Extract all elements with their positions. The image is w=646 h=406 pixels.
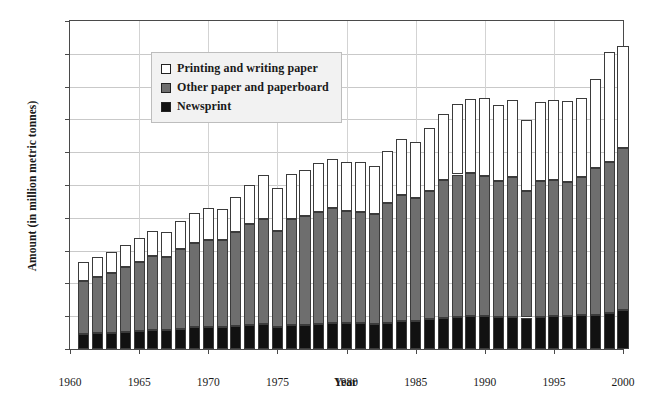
bar-1992 [507, 21, 518, 349]
bar-segment-other-paper [78, 281, 89, 334]
bar-segment-other-paper [535, 181, 546, 316]
legend-swatch-printing-icon [161, 64, 171, 74]
bar-segment-newsprint [299, 325, 310, 349]
legend-item-printing: Printing and writing paper [161, 59, 329, 78]
bar-segment-newsprint [286, 325, 297, 349]
bar-1980 [341, 21, 352, 349]
bar-segment-printing [189, 213, 200, 243]
bar-segment-other-paper [424, 191, 435, 320]
bar-1961 [78, 21, 89, 349]
bar-segment-newsprint [576, 315, 587, 349]
bar-segment-printing [604, 52, 615, 162]
bar-segment-newsprint [521, 318, 532, 349]
bar-1994 [535, 21, 546, 349]
bar-segment-newsprint [369, 324, 380, 349]
bar-segment-printing [258, 175, 269, 219]
bar-segment-newsprint [272, 327, 283, 349]
bar-segment-other-paper [327, 208, 338, 323]
bar-segment-other-paper [272, 231, 283, 328]
bar-segment-other-paper [521, 191, 532, 318]
bar-segment-newsprint [147, 330, 158, 349]
bar-segment-printing [493, 105, 504, 181]
bar-segment-newsprint [258, 324, 269, 349]
bar-segment-other-paper [493, 181, 504, 317]
x-tick-mark [347, 349, 348, 354]
bar-segment-printing [369, 166, 380, 214]
bar-segment-printing [327, 159, 338, 208]
bar-segment-other-paper [203, 240, 214, 327]
bar-segment-newsprint [92, 333, 103, 349]
x-tick-mark [208, 349, 209, 354]
y-tick-mark [65, 316, 70, 317]
bar-segment-printing [355, 162, 366, 211]
bar-1989 [465, 21, 476, 349]
bar-segment-newsprint [355, 323, 366, 349]
bar-1986 [424, 21, 435, 349]
bar-segment-newsprint [230, 326, 241, 349]
chart-legend: Printing and writing paper Other paper a… [151, 52, 342, 123]
bar-1982 [369, 21, 380, 349]
bar-segment-other-paper [92, 277, 103, 333]
y-axis-title: Amount (in million metric tonnes) [26, 36, 38, 336]
bar-segment-newsprint [590, 315, 601, 349]
bar-segment-printing [286, 174, 297, 219]
bar-segment-newsprint [479, 316, 490, 349]
bar-segment-other-paper [396, 195, 407, 322]
bar-2000 [617, 21, 628, 349]
x-tick-mark [485, 349, 486, 354]
bar-segment-newsprint [313, 324, 324, 349]
bar-segment-printing [465, 99, 476, 173]
bar-segment-printing [78, 262, 89, 281]
bar-segment-other-paper [382, 203, 393, 323]
bar-segment-printing [590, 79, 601, 168]
bar-segment-other-paper [286, 219, 297, 326]
bar-1985 [410, 21, 421, 349]
bar-segment-printing [147, 231, 158, 257]
bar-segment-other-paper [369, 214, 380, 324]
bar-segment-other-paper [507, 177, 518, 317]
bar-segment-printing [576, 98, 587, 177]
bar-segment-other-paper [410, 198, 421, 321]
bar-segment-printing [313, 163, 324, 212]
bar-1965 [134, 21, 145, 349]
bar-segment-other-paper [465, 173, 476, 316]
y-tick-mark [65, 152, 70, 153]
bar-segment-printing [562, 101, 573, 182]
bar-segment-newsprint [507, 317, 518, 349]
legend-label-printing: Printing and writing paper [177, 61, 318, 76]
y-tick-mark [65, 119, 70, 120]
bar-1999 [604, 21, 615, 349]
bar-segment-printing [272, 188, 283, 230]
bar-segment-newsprint [106, 333, 117, 349]
bar-segment-other-paper [230, 232, 241, 326]
bar-segment-printing [438, 114, 449, 180]
bar-segment-newsprint [562, 316, 573, 349]
bar-1993 [521, 21, 532, 349]
bar-1981 [355, 21, 366, 349]
bar-1984 [396, 21, 407, 349]
bar-segment-newsprint [617, 310, 628, 349]
bar-segment-newsprint [134, 331, 145, 349]
bar-1988 [452, 21, 463, 349]
bar-segment-newsprint [161, 330, 172, 349]
legend-swatch-other-paper-icon [161, 83, 171, 93]
bar-segment-printing [507, 100, 518, 177]
y-tick-mark [65, 283, 70, 284]
bar-segment-other-paper [120, 267, 131, 332]
y-tick-mark [65, 185, 70, 186]
bar-segment-printing [341, 162, 352, 211]
x-axis-title: Year [69, 376, 622, 388]
bar-segment-printing [535, 102, 546, 181]
bar-segment-other-paper [106, 273, 117, 333]
bar-1983 [382, 21, 393, 349]
bar-segment-printing [548, 100, 559, 181]
legend-item-newsprint: Newsprint [161, 97, 329, 116]
bar-segment-other-paper [604, 162, 615, 313]
x-tick-mark [554, 349, 555, 354]
bar-segment-printing [410, 142, 421, 197]
bar-1964 [120, 21, 131, 349]
x-tick-mark [416, 349, 417, 354]
bar-segment-newsprint [382, 323, 393, 349]
bar-segment-newsprint [78, 334, 89, 349]
bar-1962 [92, 21, 103, 349]
